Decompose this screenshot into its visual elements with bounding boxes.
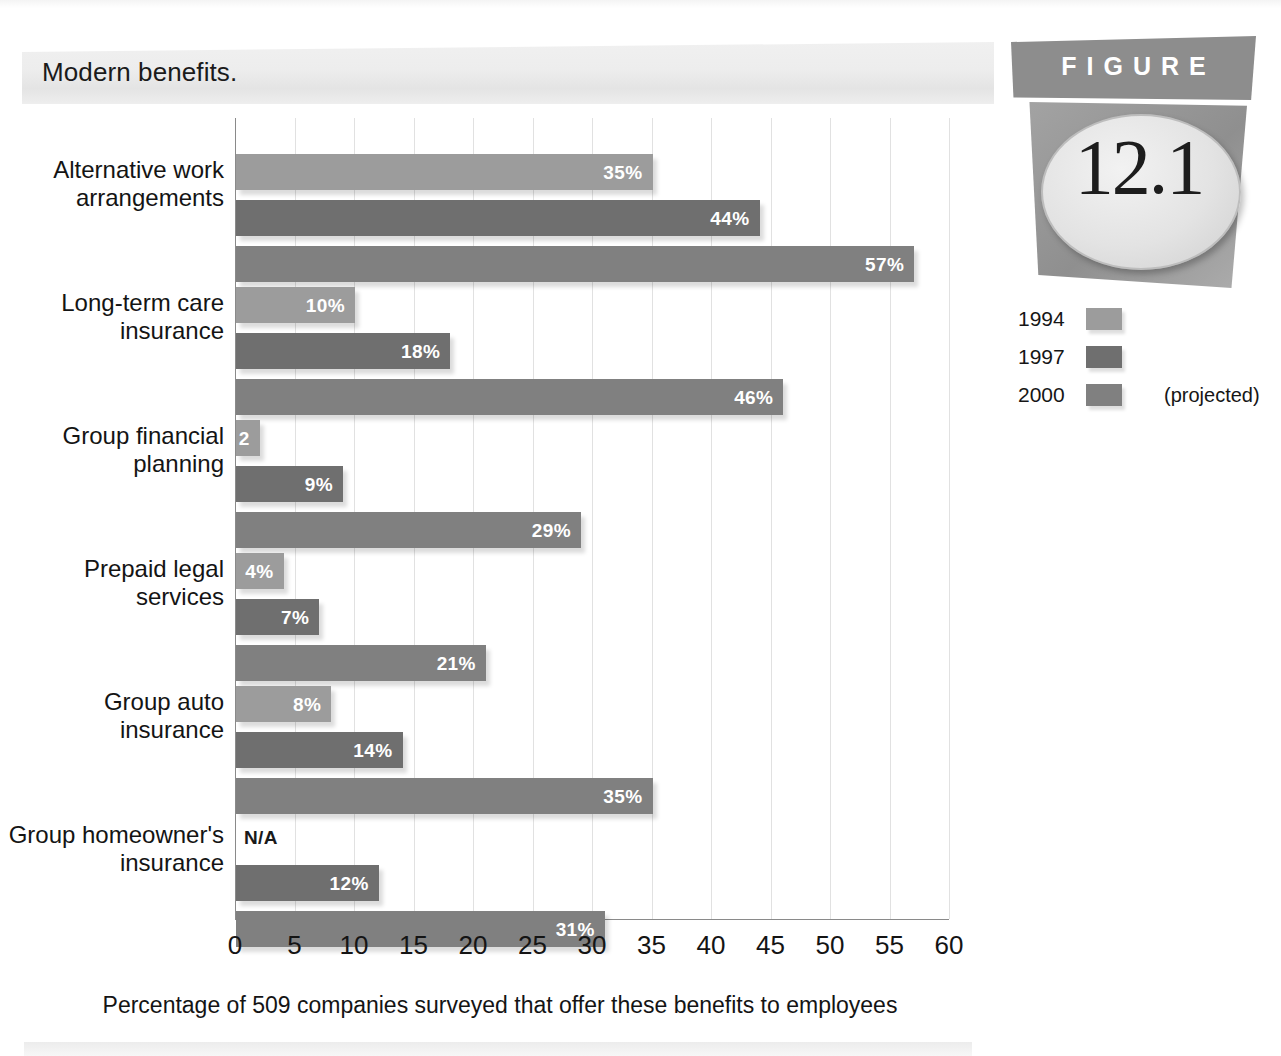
bar-group-item: 14% bbox=[236, 732, 950, 768]
bar bbox=[236, 778, 653, 814]
category-label: Group homeowner'sinsurance bbox=[0, 821, 224, 877]
bar-value-label: 29% bbox=[532, 520, 571, 542]
bar-group-item: 8% bbox=[236, 686, 950, 722]
page-top-edge bbox=[0, 0, 1281, 8]
bar-value-label: 21% bbox=[437, 653, 476, 675]
bar-group-item: 44% bbox=[236, 200, 950, 236]
bar bbox=[236, 512, 581, 548]
legend-swatch-2000 bbox=[1086, 384, 1122, 406]
bar-group-item: 7% bbox=[236, 599, 950, 635]
category-label: Alternative workarrangements bbox=[0, 156, 224, 212]
bar-value-label: 12% bbox=[330, 873, 369, 895]
bar-value-label: 10% bbox=[306, 295, 345, 317]
legend-swatch-1994 bbox=[1086, 308, 1122, 330]
bar-value-label: 2 bbox=[239, 428, 250, 450]
plot-area: 35%44%57%10%18%46%29%29%4%7%21%8%14%35%N… bbox=[235, 118, 949, 920]
x-tick-label: 15 bbox=[399, 930, 428, 961]
bar-group-item: 29% bbox=[236, 512, 950, 548]
bar-value-label: 9% bbox=[305, 474, 333, 496]
bar-group-item: 12% bbox=[236, 865, 950, 901]
bar-group-item: 4% bbox=[236, 553, 950, 589]
legend-item: 2000 (projected) bbox=[1018, 376, 1268, 414]
bar-group-item: 10% bbox=[236, 287, 950, 323]
bar bbox=[236, 154, 653, 190]
bar-chart: Alternative workarrangementsLong-term ca… bbox=[0, 118, 1000, 938]
category-label: Prepaid legalservices bbox=[0, 555, 224, 611]
x-tick-label: 40 bbox=[697, 930, 726, 961]
bar-group-item: 35% bbox=[236, 154, 950, 190]
figure-number-label: 12.1 bbox=[1041, 128, 1237, 206]
bar-group-item: 46% bbox=[236, 379, 950, 415]
bar-group-item: 21% bbox=[236, 645, 950, 681]
bar-group-item: 2 bbox=[236, 420, 950, 456]
x-tick-label: 35 bbox=[637, 930, 666, 961]
bar-value-label: 57% bbox=[865, 254, 904, 276]
legend-year-label: 1997 bbox=[1018, 345, 1078, 369]
bar-value-label: 35% bbox=[603, 162, 642, 184]
bar-value-label: 35% bbox=[603, 786, 642, 808]
bar-group-item: 18% bbox=[236, 333, 950, 369]
category-label: Group financialplanning bbox=[0, 422, 224, 478]
category-axis-labels: Alternative workarrangementsLong-term ca… bbox=[0, 118, 224, 918]
bar bbox=[236, 200, 760, 236]
x-axis-label: Percentage of 509 companies surveyed tha… bbox=[0, 992, 1000, 1019]
x-tick-label: 30 bbox=[578, 930, 607, 961]
page-bottom-band bbox=[24, 1042, 972, 1056]
bar-group-item: N/A bbox=[236, 819, 950, 855]
bar-group-item: 57% bbox=[236, 246, 950, 282]
category-label: Long-term careinsurance bbox=[0, 289, 224, 345]
figure-badge: FIGURE 12.1 bbox=[1005, 36, 1260, 288]
category-label: Group autoinsurance bbox=[0, 688, 224, 744]
bar-value-label: 8% bbox=[293, 694, 321, 716]
legend-item: 1997 bbox=[1018, 338, 1268, 376]
x-axis-ticks: 051015202530354045505560 bbox=[0, 930, 714, 964]
bar-value-label: 46% bbox=[734, 387, 773, 409]
bar bbox=[236, 379, 783, 415]
x-tick-label: 50 bbox=[816, 930, 845, 961]
x-tick-label: 5 bbox=[287, 930, 301, 961]
x-tick-label: 45 bbox=[756, 930, 785, 961]
x-tick-label: 25 bbox=[518, 930, 547, 961]
bar-value-label: 18% bbox=[401, 341, 440, 363]
bar-group-item: 9% bbox=[236, 466, 950, 502]
legend-item: 1994 bbox=[1018, 300, 1268, 338]
bar-value-label: 7% bbox=[281, 607, 309, 629]
bar bbox=[236, 246, 914, 282]
x-tick-label: 10 bbox=[340, 930, 369, 961]
bar-value-label: N/A bbox=[244, 827, 278, 849]
bar-value-label: 44% bbox=[710, 208, 749, 230]
page-title: Modern benefits. bbox=[42, 57, 237, 88]
legend-swatch-1997 bbox=[1086, 346, 1122, 368]
x-tick-label: 0 bbox=[228, 930, 242, 961]
bar-group-item: 35% bbox=[236, 778, 950, 814]
bar-value-label: 4% bbox=[245, 561, 273, 583]
bar-value-label: 14% bbox=[353, 740, 392, 762]
chart-legend: 1994 1997 2000 (projected) bbox=[1018, 300, 1268, 414]
legend-note: (projected) bbox=[1164, 384, 1260, 407]
legend-year-label: 1994 bbox=[1018, 307, 1078, 331]
x-tick-label: 60 bbox=[935, 930, 964, 961]
x-tick-label: 20 bbox=[459, 930, 488, 961]
figure-page: Modern benefits. FIGURE 12.1 1994 1997 2… bbox=[0, 0, 1281, 1056]
x-tick-label: 55 bbox=[875, 930, 904, 961]
figure-word-label: FIGURE bbox=[1011, 52, 1256, 81]
legend-year-label: 2000 bbox=[1018, 383, 1078, 407]
